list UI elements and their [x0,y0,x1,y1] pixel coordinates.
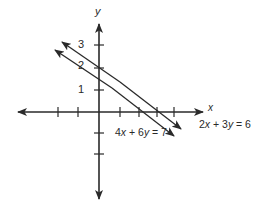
equation-label-4x-6y-7: 4x + 6y = 7 [115,127,167,138]
y-tick-label-2: 2 [78,60,84,71]
equation-label-2x-3y-6: 2x + 3y = 6 [199,119,251,130]
line-2x-3y-6-lower-half [120,82,181,129]
graph-svg [0,0,257,213]
y-tick-label-3: 3 [78,39,84,50]
line-2x-3y-6 [62,42,120,82]
x-axis-label: x [208,103,213,113]
y-tick-label-1: 1 [78,84,84,95]
y-axis-label: y [95,6,101,17]
coordinate-plane: y x 3 2 1 2x + 3y = 6 4x + 6y = 7 [0,0,257,213]
